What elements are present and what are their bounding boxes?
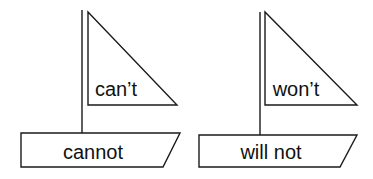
hull-label: cannot (63, 141, 123, 163)
boat-cant: can’t cannot (21, 10, 180, 167)
boat-wont: won’t will not (199, 12, 357, 167)
sail-label: won’t (272, 78, 320, 100)
hull-label: will not (239, 141, 302, 163)
contractions-diagram: can’t cannot won’t will not (0, 0, 373, 179)
sail-label: can’t (95, 78, 138, 100)
